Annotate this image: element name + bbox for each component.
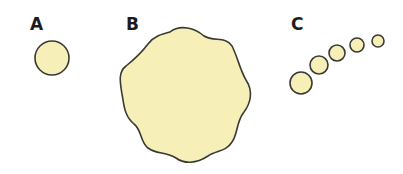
circle-c-2 (310, 56, 328, 74)
circle-c-4 (350, 38, 364, 52)
blob-b (120, 28, 250, 163)
circle-c-3 (329, 45, 345, 61)
diagram-canvas: A B C (0, 0, 403, 174)
diagram-shapes (0, 0, 403, 174)
circle-c-1 (290, 72, 312, 94)
circle-c-5 (372, 35, 384, 47)
circle-a (35, 41, 69, 75)
